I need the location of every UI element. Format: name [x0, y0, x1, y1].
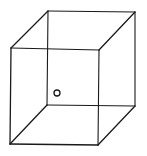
top-left-depth-edge	[11, 11, 48, 48]
front-top-edge	[11, 48, 99, 50]
cube-connecting-edges	[10, 11, 135, 145]
front-left-edge	[10, 48, 11, 144]
back-left-edge	[47, 11, 48, 105]
top-right-depth-edge	[99, 12, 135, 50]
front-bottom-edge	[10, 144, 98, 145]
back-top-edge	[48, 11, 135, 12]
back-bottom-edge	[47, 105, 135, 106]
circle-marker-icon	[54, 90, 60, 96]
bottom-right-depth-edge	[98, 106, 135, 145]
cube-diagram	[0, 0, 147, 156]
bottom-left-depth-edge	[10, 105, 47, 144]
front-right-edge	[98, 50, 99, 145]
